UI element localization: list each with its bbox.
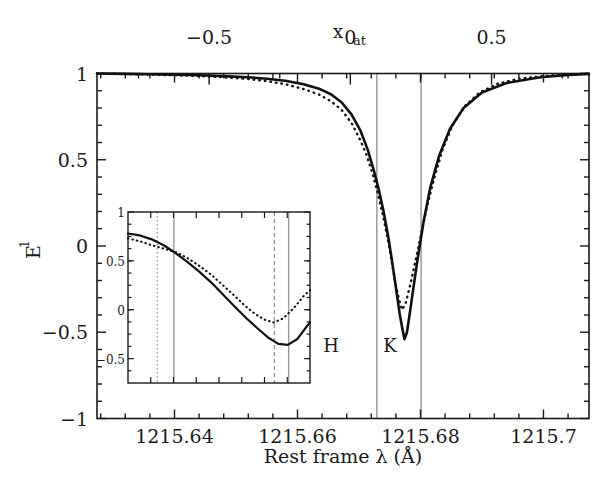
annotation-label-k: K (383, 335, 397, 356)
x-tick-label: 1215.66 (258, 425, 337, 447)
annotation-label-h: H (323, 335, 339, 356)
figure-container: 1215.641215.661215.681215.710.50−0.5−1−0… (0, 0, 616, 493)
x-axis-title: Rest frame λ (Å) (264, 445, 422, 467)
top-tick-label: 0.5 (476, 26, 506, 48)
top-axis-title: x (333, 21, 343, 42)
inset-group: 10.50−0.5 (96, 206, 310, 383)
y-tick-label: 0.5 (58, 149, 88, 171)
y-tick-label: −1 (60, 408, 88, 430)
y-tick-label: −0.5 (42, 321, 88, 343)
inset-y-tick-label: −0.5 (96, 353, 125, 367)
x-tick-label: 1215.68 (381, 425, 460, 447)
inset-y-tick-label: 0.5 (106, 255, 125, 269)
inset-background (128, 212, 310, 383)
top-tick-label: −0.5 (186, 26, 232, 48)
y-axis-title-subscript: 1 (17, 240, 32, 248)
x-tick-label: 1215.64 (135, 425, 214, 447)
y-tick-label: 1 (76, 63, 88, 85)
x-tick-label: 1215.7 (510, 425, 576, 447)
scientific-plot: 1215.641215.661215.681215.710.50−0.5−1−0… (0, 0, 616, 493)
top-axis-title-subscript: at (353, 33, 367, 48)
inset-y-tick-label: 0 (117, 304, 125, 318)
inset-y-tick-label: 1 (117, 206, 125, 220)
y-tick-label: 0 (76, 235, 88, 257)
